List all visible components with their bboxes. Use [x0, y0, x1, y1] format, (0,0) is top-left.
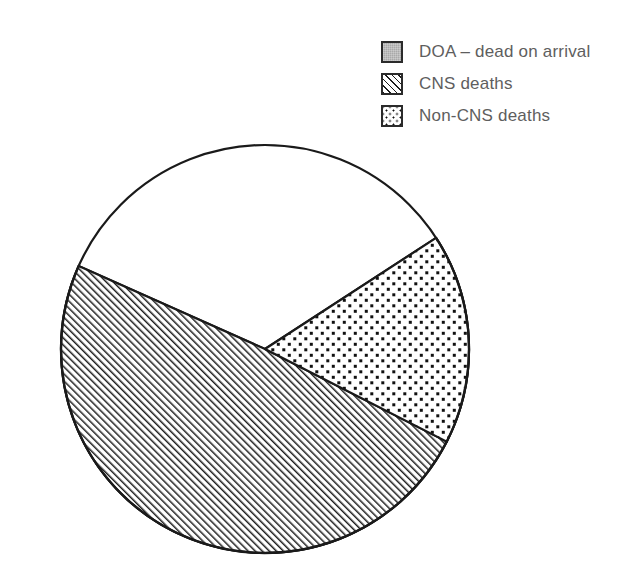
- pie-chart-svg: [0, 0, 634, 578]
- pie-chart: [0, 0, 634, 578]
